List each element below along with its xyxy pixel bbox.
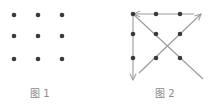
dot	[178, 56, 183, 61]
figure-2-caption: 图 2	[155, 85, 175, 100]
dot	[36, 13, 41, 18]
dot	[12, 34, 17, 39]
dot	[12, 13, 17, 18]
dot	[36, 57, 41, 62]
diagonal-up-right-arrow	[139, 14, 201, 73]
dot	[154, 12, 159, 17]
figure-1-dot-grid	[12, 13, 65, 62]
dot	[36, 34, 41, 39]
dot	[154, 56, 159, 61]
dot	[178, 32, 183, 37]
dot	[131, 56, 136, 61]
dot	[12, 57, 17, 62]
figure-1-caption: 图 1	[30, 85, 50, 100]
dot	[154, 32, 159, 37]
dot	[60, 57, 65, 62]
dot	[60, 13, 65, 18]
dot	[131, 12, 136, 17]
dot	[60, 34, 65, 39]
dot	[131, 32, 136, 37]
dot	[178, 12, 183, 17]
figure-2-path-lines	[133, 14, 203, 80]
